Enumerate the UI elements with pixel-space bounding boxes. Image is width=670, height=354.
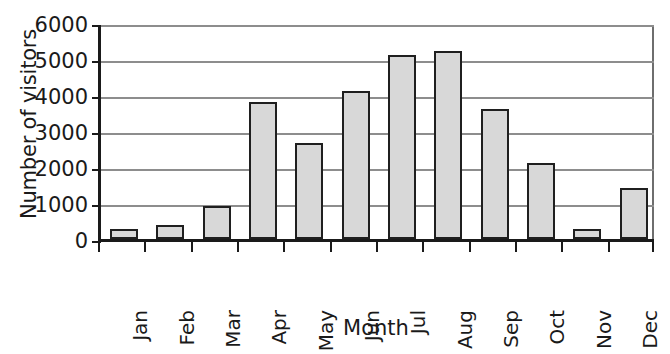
x-tick-mark	[191, 242, 193, 252]
bar[interactable]	[249, 102, 277, 239]
bar[interactable]	[388, 55, 416, 239]
x-axis-tick-labels: JanFebMarAprMayJunJulAugSepOctNovDec	[98, 252, 654, 312]
x-tick-mark	[144, 242, 146, 252]
x-tick-mark	[376, 242, 378, 252]
x-tick-mark	[422, 242, 424, 252]
bar-slot	[240, 26, 286, 239]
bar[interactable]	[620, 188, 648, 239]
bar-slot	[379, 26, 425, 239]
bar-slot	[611, 26, 657, 239]
y-tick-label: 6000	[26, 15, 88, 36]
bar-slot	[518, 26, 564, 239]
x-tick-mark	[98, 242, 100, 252]
bar[interactable]	[434, 51, 462, 239]
y-tick-label: 5000	[26, 51, 88, 72]
bar-slot	[333, 26, 379, 239]
x-tick-marks	[98, 242, 654, 252]
bar-slot	[101, 26, 147, 239]
y-tick-mark	[92, 133, 101, 135]
y-tick-mark	[92, 205, 101, 207]
y-tick-mark	[92, 25, 101, 27]
x-tick-mark	[469, 242, 471, 252]
x-tick-mark	[652, 242, 654, 252]
bar[interactable]	[342, 91, 370, 239]
x-tick-mark	[330, 242, 332, 252]
bar[interactable]	[573, 229, 601, 239]
bar[interactable]	[156, 225, 184, 239]
y-tick-mark	[92, 61, 101, 63]
y-tick-label: 1000	[26, 195, 88, 216]
bar[interactable]	[110, 229, 138, 239]
y-tick-mark	[92, 169, 101, 171]
y-tick-mark	[92, 97, 101, 99]
bar-series	[101, 26, 654, 239]
bar-slot	[194, 26, 240, 239]
bar-slot	[147, 26, 193, 239]
y-axis-tick-labels: 0100020003000400050006000	[22, 0, 88, 348]
y-tick-label: 2000	[26, 159, 88, 180]
y-tick-label: 4000	[26, 87, 88, 108]
bar-slot	[472, 26, 518, 239]
x-tick-mark	[283, 242, 285, 252]
y-tick-label: 3000	[26, 123, 88, 144]
x-tick-mark	[608, 242, 610, 252]
plot-area	[98, 26, 654, 242]
bar[interactable]	[203, 206, 231, 239]
y-tick-label: 0	[26, 231, 88, 252]
x-tick-mark	[561, 242, 563, 252]
bar-slot	[286, 26, 332, 239]
bar-slot	[564, 26, 610, 239]
x-tick-mark	[237, 242, 239, 252]
bar[interactable]	[527, 163, 555, 239]
bar[interactable]	[295, 143, 323, 239]
bar-slot	[425, 26, 471, 239]
x-tick-mark	[515, 242, 517, 252]
bar[interactable]	[481, 109, 509, 239]
x-axis-title: Month	[98, 316, 654, 340]
